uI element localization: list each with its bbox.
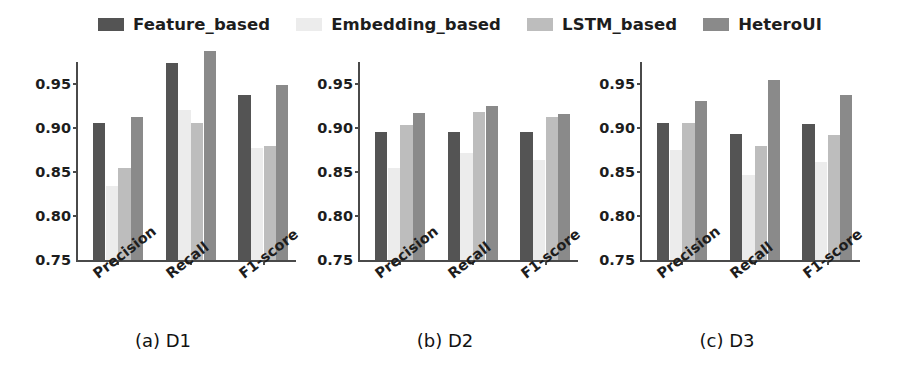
bar bbox=[204, 51, 216, 260]
y-axis-tick-label: 0.80 bbox=[599, 208, 635, 224]
subplot-caption-d2: (b) D2 bbox=[300, 330, 590, 351]
y-axis-tick-mark bbox=[637, 171, 642, 173]
bar bbox=[238, 95, 250, 260]
legend-label-heteroui: HeteroUI bbox=[738, 15, 822, 34]
subplot-d1: 0.750.800.850.900.95PrecisionRecallF1-sc… bbox=[18, 48, 308, 369]
bar bbox=[178, 110, 190, 260]
y-axis-tick-mark bbox=[73, 215, 78, 217]
y-axis-tick-mark bbox=[637, 127, 642, 129]
subplot-caption-d3: (c) D3 bbox=[582, 330, 872, 351]
bar bbox=[448, 132, 460, 260]
bar bbox=[815, 162, 827, 260]
legend-item-heteroui: HeteroUI bbox=[703, 15, 822, 34]
legend-item-feature-based: Feature_based bbox=[98, 15, 270, 34]
plot-area-d1: 0.750.800.850.900.95PrecisionRecallF1-sc… bbox=[76, 62, 296, 262]
legend-label-feature-based: Feature_based bbox=[133, 15, 270, 34]
legend-swatch-heteroui bbox=[703, 18, 729, 31]
bar bbox=[802, 124, 814, 260]
y-axis-tick-mark bbox=[637, 83, 642, 85]
bar bbox=[375, 132, 387, 260]
y-axis-tick-mark bbox=[73, 127, 78, 129]
y-axis-tick-mark bbox=[355, 127, 360, 129]
y-axis-tick-label: 0.95 bbox=[317, 76, 353, 92]
y-axis-tick-label: 0.85 bbox=[35, 164, 71, 180]
bar-group bbox=[238, 62, 288, 260]
bar bbox=[388, 168, 400, 260]
y-axis-tick-label: 0.90 bbox=[317, 120, 353, 136]
bar-group bbox=[802, 62, 852, 260]
bars-layer-d1 bbox=[78, 62, 296, 260]
figure-bar-chart-comparison: Feature_based Embedding_based LSTM_based… bbox=[0, 0, 920, 369]
bar bbox=[533, 160, 545, 260]
legend-swatch-lstm-based bbox=[527, 18, 553, 31]
bars-layer-d2 bbox=[360, 62, 578, 260]
bar-group bbox=[93, 62, 143, 260]
bar-group bbox=[448, 62, 498, 260]
bar-group bbox=[657, 62, 707, 260]
bar-group bbox=[166, 62, 216, 260]
bar bbox=[730, 134, 742, 260]
subplot-d3: 0.750.800.850.900.95PrecisionRecallF1-sc… bbox=[582, 48, 872, 369]
y-axis-tick-mark bbox=[355, 215, 360, 217]
bar bbox=[166, 63, 178, 260]
legend-label-lstm-based: LSTM_based bbox=[562, 15, 677, 34]
bar-group bbox=[730, 62, 780, 260]
y-axis-tick-mark bbox=[73, 171, 78, 173]
chart-legend: Feature_based Embedding_based LSTM_based… bbox=[0, 10, 920, 38]
y-axis-tick-mark bbox=[355, 171, 360, 173]
plot-area-d3: 0.750.800.850.900.95PrecisionRecallF1-sc… bbox=[640, 62, 860, 262]
y-axis-tick-label: 0.80 bbox=[35, 208, 71, 224]
bar bbox=[93, 123, 105, 260]
legend-label-embedding-based: Embedding_based bbox=[331, 15, 501, 34]
subplot-caption-d1: (a) D1 bbox=[18, 330, 308, 351]
bar bbox=[520, 132, 532, 260]
y-axis-tick-label: 0.75 bbox=[599, 252, 635, 268]
bars-layer-d3 bbox=[642, 62, 860, 260]
legend-item-lstm-based: LSTM_based bbox=[527, 15, 677, 34]
bar bbox=[251, 148, 263, 260]
bar bbox=[768, 80, 780, 260]
bar bbox=[460, 153, 472, 260]
y-axis-tick-mark bbox=[73, 83, 78, 85]
y-axis-tick-label: 0.90 bbox=[35, 120, 71, 136]
bar bbox=[486, 106, 498, 260]
bar-group bbox=[375, 62, 425, 260]
y-axis-tick-label: 0.75 bbox=[35, 252, 71, 268]
y-axis-tick-label: 0.95 bbox=[35, 76, 71, 92]
y-axis-tick-mark bbox=[637, 215, 642, 217]
y-axis-tick-label: 0.95 bbox=[599, 76, 635, 92]
legend-swatch-embedding-based bbox=[296, 18, 322, 31]
bar bbox=[670, 150, 682, 260]
bar bbox=[657, 123, 669, 260]
legend-item-embedding-based: Embedding_based bbox=[296, 15, 501, 34]
subplot-d2: 0.750.800.850.900.95PrecisionRecallF1-sc… bbox=[300, 48, 590, 369]
y-axis-tick-label: 0.80 bbox=[317, 208, 353, 224]
y-axis-tick-label: 0.75 bbox=[317, 252, 353, 268]
plot-area-d2: 0.750.800.850.900.95PrecisionRecallF1-sc… bbox=[358, 62, 578, 262]
legend-swatch-feature-based bbox=[98, 18, 124, 31]
y-axis-tick-label: 0.90 bbox=[599, 120, 635, 136]
y-axis-tick-mark bbox=[355, 83, 360, 85]
bar-group bbox=[520, 62, 570, 260]
y-axis-tick-label: 0.85 bbox=[317, 164, 353, 180]
y-axis-tick-label: 0.85 bbox=[599, 164, 635, 180]
